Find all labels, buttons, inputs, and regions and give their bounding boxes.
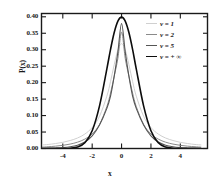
legend-swatch [146,45,157,46]
y-tick-label: 0.25 [9,62,38,70]
y-tick-label-wrap: 0.15 [9,95,38,104]
y-tick-label-wrap: 0.30 [9,45,38,54]
y-tick-label: 0.05 [9,128,38,136]
y-tick-label-wrap: 0.35 [9,29,38,38]
y-tick-label: 0.20 [9,78,38,86]
y-tick-label: 0.15 [9,95,38,103]
legend-item: ν = 5 [146,40,204,51]
y-tick-label-wrap: 0.40 [9,12,38,21]
legend-swatch [146,56,157,57]
x-tick-label-wrap: 2 [141,152,161,162]
x-tick-label-wrap: -2 [82,152,102,162]
x-tick-label: 2 [141,152,161,160]
y-tick-label: 0.10 [9,111,38,119]
legend-label: ν = 2 [160,31,174,39]
x-tick-label: -2 [82,152,102,160]
y-tick-label: 0.35 [9,29,38,37]
legend-label: ν = + ∞ [160,53,181,61]
x-tick-label: -4 [53,152,73,160]
y-tick-label: 0.30 [9,45,38,53]
y-tick-label-wrap: 0.00 [9,144,38,153]
legend-item: ν = 1 [146,18,204,29]
y-tick-label-wrap: 0.05 [9,128,38,137]
y-tick-label-wrap: 0.10 [9,111,38,120]
x-tick-label-wrap: 4 [170,152,190,162]
x-tick-label-wrap: -4 [53,152,73,162]
legend-item: ν = 2 [146,29,204,40]
chart-figure: P(x) x 0.000.050.100.150.200.250.300.350… [0,0,218,182]
y-tick-label-wrap: 0.20 [9,78,38,87]
x-tick-label-wrap: 0 [112,152,132,162]
legend-swatch [146,23,157,24]
y-tick-label: 0.00 [9,144,38,152]
legend-label: ν = 1 [160,20,174,28]
y-tick-label-wrap: 0.25 [9,62,38,71]
x-tick-label: 4 [170,152,190,160]
x-axis-label: x [108,169,112,178]
chart-legend: ν = 1ν = 2ν = 5ν = + ∞ [146,18,204,62]
y-tick-label: 0.40 [9,12,38,20]
x-tick-label: 0 [112,152,132,160]
legend-label: ν = 5 [160,42,174,50]
legend-swatch [146,34,157,35]
legend-item: ν = + ∞ [146,51,204,62]
